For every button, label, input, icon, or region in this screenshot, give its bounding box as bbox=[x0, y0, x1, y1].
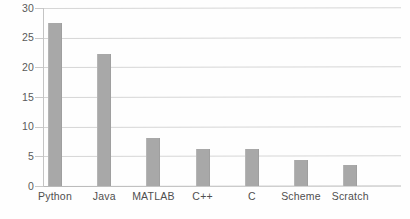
y-axis-tick-label-text: 15 bbox=[8, 92, 34, 103]
x-axis-category-label: Java bbox=[93, 191, 116, 202]
gridline bbox=[43, 7, 401, 9]
y-axis-tick-label-text: 0 bbox=[8, 181, 34, 192]
y-axis-tick-label: 10 bbox=[0, 121, 34, 132]
x-axis-category-label: Python bbox=[38, 191, 72, 202]
x-axis-category-label: C++ bbox=[192, 191, 212, 202]
y-axis-tick-label-text: 20 bbox=[8, 62, 34, 73]
y-axis-tick-label-text: 5 bbox=[8, 151, 34, 162]
y-axis-tick-label-text: 25 bbox=[8, 32, 34, 43]
y-axis-tick-label-text: 10 bbox=[8, 121, 34, 132]
plot-area: 051015202530 PythonJavaMATLABC++CSchemeS… bbox=[0, 0, 410, 219]
bar-scratch bbox=[343, 165, 357, 186]
y-axis-tick-label: 20 bbox=[0, 62, 34, 73]
gridline bbox=[43, 37, 401, 39]
x-axis-category-label: MATLAB bbox=[132, 191, 174, 202]
bar-python bbox=[48, 23, 62, 186]
bar-java bbox=[97, 54, 111, 186]
y-axis-tick-label: 15 bbox=[0, 92, 34, 103]
x-axis-category-label: C bbox=[248, 191, 256, 202]
x-axis-category-label: Scheme bbox=[281, 191, 321, 202]
y-axis-tick-label: 5 bbox=[0, 151, 34, 162]
bar-c bbox=[245, 149, 259, 186]
y-axis-tick-label-text: 30 bbox=[8, 3, 34, 14]
y-axis-tick-label: 25 bbox=[0, 32, 34, 43]
bar-scheme bbox=[294, 160, 308, 186]
y-axis-tick-label: 30 bbox=[0, 3, 34, 14]
y-axis-line bbox=[43, 8, 44, 187]
y-axis-tick-label: 0 bbox=[0, 181, 34, 192]
bar-chart: 051015202530 PythonJavaMATLABC++CSchemeS… bbox=[0, 0, 410, 219]
bar-matlab bbox=[146, 138, 160, 186]
x-axis-category-label: Scratch bbox=[332, 191, 369, 202]
bar-cpp bbox=[196, 149, 210, 186]
